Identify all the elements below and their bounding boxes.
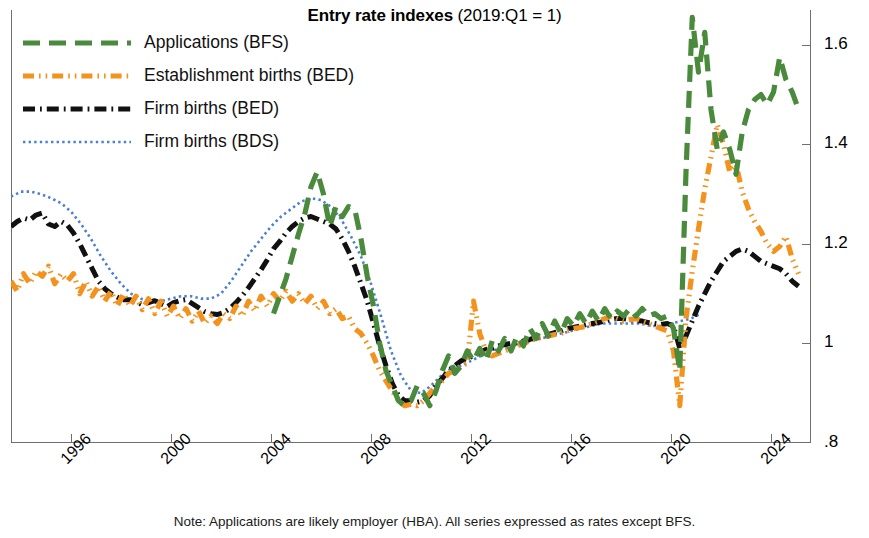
legend-swatch-establishment-births-bed [22, 67, 132, 85]
legend-item-establishment-births-bed[interactable]: Establishment births (BED) [22, 59, 422, 92]
legend-item-firm-births-bed[interactable]: Firm births (BED) [22, 92, 422, 125]
legend-label-establishment-births-bed: Establishment births (BED) [144, 65, 354, 86]
legend-label-firm-births-bds: Firm births (BDS) [144, 131, 279, 152]
y-tick-mark [802, 343, 811, 344]
chart-legend: Applications (BFS)Establishment births (… [22, 26, 422, 158]
y-tick-mark [802, 144, 811, 145]
chart-root: Entry rate indexes (2019:Q1 = 1) .811.21… [0, 0, 869, 538]
legend-item-applications-bfs[interactable]: Applications (BFS) [22, 26, 422, 59]
y-tick-label: 1 [824, 332, 833, 352]
chart-note: Note: Applications are likely employer (… [0, 514, 869, 529]
y-tick-label: 1.2 [824, 233, 848, 253]
y-tick-mark [802, 45, 811, 46]
legend-swatch-firm-births-bed [22, 100, 132, 118]
legend-item-firm-births-bds[interactable]: Firm births (BDS) [22, 125, 422, 158]
legend-label-applications-bfs: Applications (BFS) [144, 32, 289, 53]
y-tick-label: 1.6 [824, 34, 848, 54]
y-tick-label: 1.4 [824, 133, 848, 153]
y-tick-mark [802, 244, 811, 245]
legend-label-firm-births-bed: Firm births (BED) [144, 98, 279, 119]
y-tick-label: .8 [824, 432, 838, 452]
legend-swatch-applications-bfs [22, 34, 132, 52]
legend-swatch-firm-births-bds [22, 133, 132, 151]
